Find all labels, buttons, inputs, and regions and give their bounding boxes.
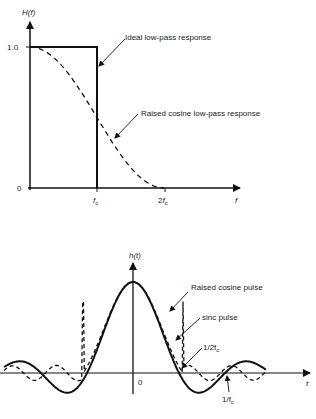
- top-y-label: H(f): [22, 8, 36, 17]
- half-period-annotation: 1/2fc: [203, 343, 219, 353]
- sinc-annotation: sinc pulse: [202, 313, 238, 322]
- tick-label-fc: fc: [93, 196, 98, 206]
- half-period-pointer: [182, 348, 202, 368]
- raised-cosine-pulse-curve: [4, 282, 266, 381]
- raised-pulse-annotation: Raised cosine pulse: [191, 283, 263, 292]
- period-annotation: 1/fc: [222, 395, 234, 405]
- bottom-chart: h(t) 0 t Raised cosine pulse sinc pulse …: [0, 251, 310, 405]
- raised-pointer: [115, 114, 138, 138]
- tick-label-2fc: 2fc: [158, 196, 168, 206]
- sinc-pointer: [176, 318, 200, 340]
- bottom-x-label: t: [306, 379, 309, 388]
- top-chart: H(f) 1.0 0 fc 2fc f Ideal low-pass respo…: [7, 8, 261, 206]
- ideal-pointer: [99, 39, 125, 66]
- bottom-y-label: h(t): [129, 251, 141, 260]
- origin-label: 0: [138, 378, 143, 387]
- raised-annotation: Raised cosine low-pass response: [141, 109, 261, 118]
- diagram-canvas: H(f) 1.0 0 fc 2fc f Ideal low-pass respo…: [0, 0, 316, 419]
- raised-pulse-pointer: [170, 292, 188, 311]
- top-x-label: f: [235, 196, 238, 205]
- ideal-annotation: Ideal low-pass response: [125, 33, 212, 42]
- tick-label-0: 0: [17, 184, 22, 193]
- period-pointer: [227, 376, 229, 392]
- tick-label-1: 1.0: [7, 43, 19, 52]
